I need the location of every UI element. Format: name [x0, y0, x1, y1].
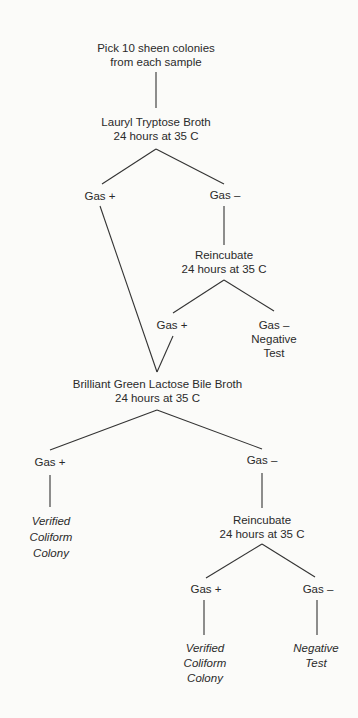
negative-test-2: Negative Test [285, 641, 347, 671]
verified-coliform-colony-2: Verified Coliform Colony [174, 641, 236, 686]
ltb-gas-positive: Gas + [70, 189, 130, 203]
reinc2-gas-negative: Gas – [288, 582, 348, 596]
reinc1-gas-negative-test: Gas – Negative Test [244, 318, 304, 360]
reinc2-gas-positive: Gas + [176, 582, 236, 596]
lauryl-tryptose-broth-node: Lauryl Tryptose Broth 24 hours at 35 C [56, 115, 256, 143]
reincubate-node-2: Reincubate 24 hours at 35 C [202, 513, 322, 541]
reincubate-node-1: Reincubate 24 hours at 35 C [164, 248, 284, 276]
start-node: Pick 10 sheen colonies from each sample [56, 41, 256, 69]
brilliant-green-broth-node: Brilliant Green Lactose Bile Broth 24 ho… [50, 377, 265, 405]
verified-coliform-colony-1: Verified Coliform Colony [20, 513, 82, 561]
bglb-gas-negative: Gas – [232, 453, 292, 467]
ltb-gas-negative: Gas – [195, 188, 255, 202]
bglb-gas-positive: Gas + [20, 455, 80, 469]
reinc1-gas-positive: Gas + [142, 318, 202, 332]
connector-lines [0, 0, 358, 718]
